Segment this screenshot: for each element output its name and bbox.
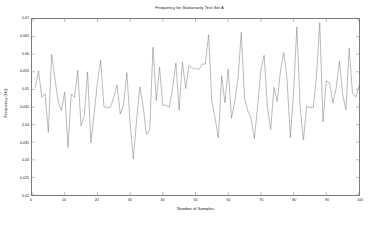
- x-tick-label: 80: [292, 198, 296, 203]
- y-axis-label: Frequency (Hz): [3, 73, 9, 133]
- x-tick-label: 40: [161, 198, 165, 203]
- x-axis-label: Number of Samples: [31, 206, 360, 212]
- x-tick-label: 100: [357, 198, 363, 203]
- series-line-set-a: [35, 23, 359, 160]
- y-tick-label: 0.02: [22, 194, 29, 198]
- y-tick-label: 0.045: [20, 105, 29, 109]
- x-tick-label: 90: [325, 198, 329, 203]
- axis-tick-marks: [32, 19, 359, 195]
- x-tick-label: 0: [30, 198, 32, 203]
- y-tick-label: 0.06: [22, 52, 29, 56]
- x-tick-label: 20: [95, 198, 99, 203]
- plot-area: [31, 18, 360, 196]
- x-tick-label: 30: [128, 198, 132, 203]
- y-tick-label: 0.055: [20, 69, 29, 73]
- y-tick-label: 0.065: [20, 34, 29, 38]
- y-tick-label: 0.07: [22, 16, 29, 20]
- chart-figure: Frequency for Stationarity Test Set A 0.…: [0, 0, 379, 227]
- data-line-series: [32, 19, 359, 195]
- y-tick-label: 0.025: [20, 176, 29, 180]
- chart-title: Frequency for Stationarity Test Set A: [0, 5, 379, 11]
- x-axis-tick-labels: 0102030405060708090100: [31, 198, 360, 204]
- x-tick-label: 70: [259, 198, 263, 203]
- x-tick-label: 50: [194, 198, 198, 203]
- x-tick-label: 60: [226, 198, 230, 203]
- y-tick-label: 0.035: [20, 141, 29, 145]
- x-tick-label: 10: [62, 198, 66, 203]
- y-tick-label: 0.05: [22, 87, 29, 91]
- y-tick-label: 0.03: [22, 158, 29, 162]
- y-tick-label: 0.04: [22, 123, 29, 127]
